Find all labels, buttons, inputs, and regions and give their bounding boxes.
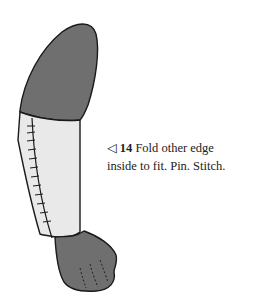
caption-line-1: ◁ 14 Fold other edge [107,139,267,157]
step-caption: ◁ 14 Fold other edge inside to fit. Pin.… [107,139,267,175]
instruction-line-1: Fold other edge [135,141,213,155]
paw-fur [55,231,117,291]
sleeve-fabric [18,112,80,237]
step-number: 14 [120,141,133,155]
upper-arm-fur [20,24,98,121]
instruction-line-2: inside to fit. Pin. Stitch. [107,157,267,175]
step-marker-icon: ◁ [107,141,117,155]
